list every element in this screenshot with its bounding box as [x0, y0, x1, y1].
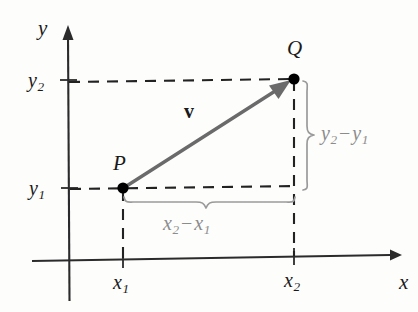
y-axis-label: y — [38, 18, 47, 39]
point-label-p: P — [113, 153, 126, 174]
tick-marks-group — [60, 80, 294, 268]
x-axis-arrowhead-icon — [390, 250, 402, 261]
brace-vertical-y-difference — [303, 81, 314, 190]
vector-shaft — [125, 86, 283, 187]
brace-horizontal-x-difference — [124, 197, 295, 208]
x-axis-line — [32, 255, 390, 261]
point-marker-q — [288, 73, 299, 84]
vector-arrowhead-icon — [269, 80, 291, 99]
tick-label-x1: x1 — [113, 272, 129, 295]
axes-group — [32, 25, 402, 301]
point-marker-p — [117, 182, 128, 193]
tick-label-y2: y2 — [28, 70, 44, 93]
y-axis-arrowhead-icon — [63, 25, 74, 40]
measure-label-x-difference: x2−x1 — [163, 213, 210, 236]
vector-arrow-group — [125, 80, 291, 187]
dashed-line-y2-to-q — [69, 79, 293, 82]
tick-label-x2: x2 — [284, 270, 300, 293]
y-axis-line — [68, 36, 70, 301]
tick-label-y1: y1 — [29, 178, 45, 201]
diagram-canvas — [0, 0, 418, 312]
vector-diagram-figure: y x y2 y1 x1 x2 Q P v y2−y1 x2−x1 — [0, 0, 418, 312]
point-label-q: Q — [287, 38, 302, 59]
measure-label-y-difference: y2−y1 — [321, 123, 368, 146]
vector-label: v — [184, 101, 194, 121]
dashed-line-y1-to-x2 — [70, 186, 296, 189]
x-axis-label: x — [399, 272, 408, 293]
